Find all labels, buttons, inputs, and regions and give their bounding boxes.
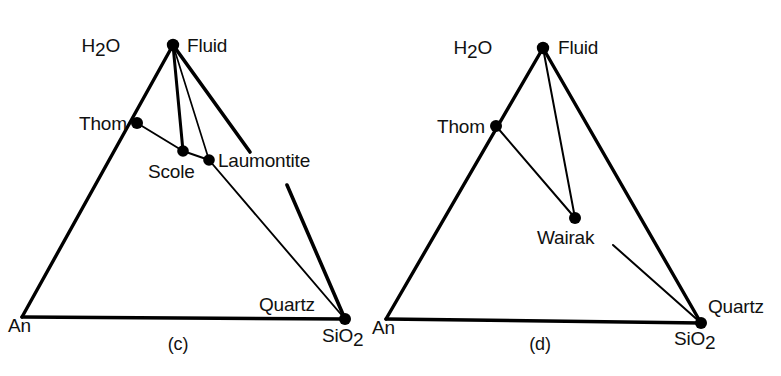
point-thom-c[interactable] [131,117,143,129]
caption-panel-c: (c) [168,334,188,354]
figure-container: H2O Fluid An SiO2 Thom Scole Laumontite … [0,0,781,376]
point-quartz-c[interactable] [339,313,351,325]
ternary-diagrams-svg: H2O Fluid An SiO2 Thom Scole Laumontite … [0,0,781,376]
panel-d: H2O Fluid An SiO2 Thom Wairak Quartz (d) [372,37,764,354]
tieline-thom-scole [137,123,183,151]
edge-an-sio2 [22,317,345,319]
label-an-d: An [372,317,395,338]
edge-h2o-sio2-d [543,48,701,323]
label-quartz-d: Quartz [708,296,764,317]
point-thom-d[interactable] [490,120,502,132]
panel-c: H2O Fluid An SiO2 Thom Scole Laumontite … [8,35,363,354]
point-scole-c[interactable] [177,145,189,157]
edge-an-sio2-d [386,319,701,323]
label-sio2-d: SiO2 [674,328,715,353]
label-thom-d: Thom [437,116,485,137]
point-wairak-d[interactable] [569,212,581,224]
label-fluid-d: Fluid [558,37,598,58]
label-scole-c: Scole [148,161,195,182]
label-quartz-c: Quartz [259,294,315,315]
caption-panel-d: (d) [529,334,550,354]
point-fluid-d[interactable] [537,42,549,54]
edge-an-h2o-d [386,48,543,319]
edge-h2o-sio2-upper [173,45,250,152]
label-thom-c: Thom [79,113,127,134]
tieline-wairak-sio2 [613,245,701,323]
label-sio2-c: SiO2 [322,325,363,350]
label-laumontite-c: Laumontite [218,150,310,171]
label-h2o-d: H2O [454,37,493,62]
point-laumontite-c[interactable] [203,154,215,166]
point-fluid-c[interactable] [167,39,179,51]
label-an-c: An [8,315,31,336]
label-h2o-c: H2O [82,35,121,60]
tieline-thom-wairak [496,126,575,218]
label-fluid-c: Fluid [187,35,227,56]
label-wairak-d: Wairak [537,227,595,248]
